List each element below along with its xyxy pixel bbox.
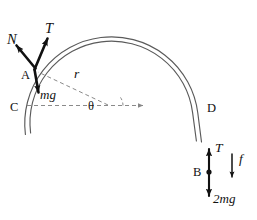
label-point-b: B bbox=[193, 165, 201, 179]
label-weight-2mg: 2mg bbox=[213, 191, 236, 206]
label-point-c: C bbox=[10, 100, 18, 114]
label-tension-at-b: T bbox=[215, 140, 224, 155]
label-friction-f: f bbox=[239, 151, 245, 166]
label-point-a: A bbox=[21, 68, 30, 82]
label-normal-force: N bbox=[6, 31, 18, 47]
label-angle-theta: θ bbox=[88, 99, 94, 113]
vector-weight-mg bbox=[35, 70, 39, 93]
physics-diagram-canvas: N T A mg C r θ D T B 2mg f bbox=[0, 0, 257, 220]
vector-tension-at-a bbox=[35, 39, 48, 70]
label-tension-at-a: T bbox=[45, 20, 54, 36]
label-radius-r: r bbox=[74, 66, 80, 81]
angle-theta-arc bbox=[120, 96, 123, 105]
label-weight-mg: mg bbox=[40, 87, 56, 102]
diagram-svg: N T A mg C r θ D T B 2mg f bbox=[0, 0, 257, 220]
vector-normal-force bbox=[17, 46, 36, 69]
label-point-d: D bbox=[207, 101, 216, 115]
